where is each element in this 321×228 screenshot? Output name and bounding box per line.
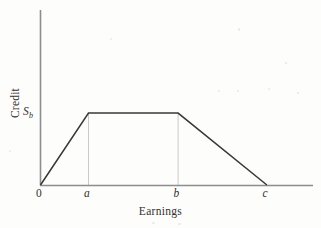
y-axis-label: Credit [10, 104, 22, 118]
y-tick-label-sb-base: S [23, 105, 29, 117]
x-tick-label-0: 0 [36, 188, 42, 200]
x-tick-label-a: a [84, 188, 90, 200]
y-tick-label-sb-subscript: b [29, 111, 33, 120]
plot-area [0, 0, 321, 228]
x-tick-label-c: c [262, 188, 267, 200]
credit-schedule-line [41, 113, 267, 185]
plot-svg [0, 0, 321, 228]
x-tick-label-b: b [174, 188, 180, 200]
y-tick-label-sb: Sb [23, 106, 33, 118]
credit-earnings-figure: Credit Sb 0 a b c Earnings [0, 0, 321, 228]
x-axis-label: Earnings [0, 206, 321, 218]
